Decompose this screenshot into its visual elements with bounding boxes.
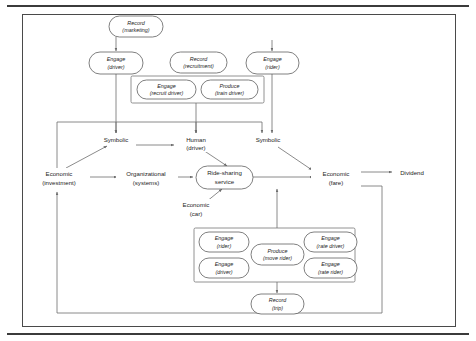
node-produce-train-driver[interactable]: Produce (train driver) bbox=[201, 80, 258, 99]
node-engage-recruit-driver[interactable]: Engage (recruit driver) bbox=[137, 80, 196, 99]
node-economic-investment-line2: (investment) bbox=[42, 179, 76, 186]
node-record-recruitment-line2: (recruitment) bbox=[183, 63, 214, 69]
node-engage-rate-rider[interactable]: Engage (rate rider) bbox=[304, 258, 357, 278]
node-record-trip-line1: Record bbox=[269, 297, 287, 303]
node-economic-fare-line1: Economic bbox=[323, 170, 350, 177]
node-record-marketing-line2: (marketing) bbox=[122, 27, 149, 33]
node-symbolic-left-label: Symbolic bbox=[104, 136, 129, 143]
node-dividend[interactable]: Dividend bbox=[400, 169, 424, 176]
node-economic-investment-line1: Economic bbox=[46, 170, 73, 177]
node-produce-train-driver-line2: (train driver) bbox=[215, 90, 244, 96]
node-engage-rider-top-line1: Engage bbox=[263, 56, 282, 62]
node-engage-rider-lower-line2: (rider) bbox=[217, 243, 232, 249]
node-engage-driver-top-line2: (driver) bbox=[107, 64, 124, 70]
node-record-trip[interactable]: Record (trip) bbox=[251, 294, 304, 314]
node-symbolic-left[interactable]: Symbolic bbox=[96, 133, 136, 144]
bottom-horizontal-rule bbox=[7, 333, 469, 335]
node-engage-driver-top-line1: Engage bbox=[107, 56, 126, 62]
node-produce-move-rider-line1: Produce bbox=[267, 248, 287, 254]
node-engage-rate-rider-line1: Engage bbox=[321, 261, 340, 267]
node-symbolic-right[interactable]: Symbolic bbox=[248, 133, 288, 144]
figure-page: Record (marketing) Engage (driver) Recor… bbox=[0, 0, 476, 341]
node-record-marketing[interactable]: Record (marketing) bbox=[109, 16, 163, 37]
node-engage-driver-lower[interactable]: Engage (driver) bbox=[199, 258, 249, 278]
node-record-recruitment[interactable]: Record (recruitment) bbox=[170, 52, 227, 73]
node-engage-recruit-driver-line2: (recruit driver) bbox=[150, 90, 184, 96]
node-ride-sharing-service-line2: service bbox=[215, 178, 235, 185]
node-organizational-systems-line1: Organizational bbox=[126, 170, 165, 177]
node-economic-fare-line2: (fare) bbox=[329, 179, 344, 186]
diagram-canvas: Record (marketing) Engage (driver) Recor… bbox=[0, 0, 476, 341]
node-engage-driver-top[interactable]: Engage (driver) bbox=[89, 52, 143, 74]
node-record-marketing-line1: Record bbox=[127, 20, 145, 26]
node-economic-car-line2: (car) bbox=[190, 210, 203, 217]
node-produce-move-rider[interactable]: Produce (move rider) bbox=[251, 244, 304, 265]
node-produce-move-rider-line2: (move rider) bbox=[263, 255, 292, 261]
node-economic-car[interactable]: Economic (car) bbox=[172, 199, 222, 218]
node-human-driver-line1: Human bbox=[186, 136, 206, 143]
node-ride-sharing-service[interactable]: Ride-sharing service bbox=[196, 166, 253, 189]
node-human-driver[interactable]: Human (driver) bbox=[176, 133, 216, 152]
node-engage-rider-top[interactable]: Engage (rider) bbox=[246, 52, 299, 74]
node-engage-rate-driver-line1: Engage bbox=[321, 235, 340, 241]
edge-rail-investment-upper bbox=[57, 122, 262, 170]
node-organizational-systems[interactable]: Organizational (systems) bbox=[116, 168, 178, 187]
node-engage-rider-lower[interactable]: Engage (rider) bbox=[199, 232, 249, 252]
node-engage-rate-driver-line2: (rate driver) bbox=[317, 243, 345, 249]
edge-symbolic-right-to-economic-fare bbox=[278, 147, 312, 170]
node-dividend-label: Dividend bbox=[400, 169, 424, 176]
node-engage-rider-lower-line1: Engage bbox=[215, 235, 234, 241]
node-economic-fare[interactable]: Economic (fare) bbox=[311, 168, 361, 187]
node-produce-train-driver-line1: Produce bbox=[219, 83, 239, 89]
node-engage-driver-lower-line2: (driver) bbox=[215, 269, 232, 275]
node-engage-recruit-driver-line1: Engage bbox=[157, 83, 176, 89]
node-economic-investment[interactable]: Economic (investment) bbox=[28, 168, 90, 187]
node-engage-rider-top-line2: (rider) bbox=[265, 64, 280, 70]
node-economic-car-line1: Economic bbox=[183, 201, 210, 208]
node-human-driver-line2: (driver) bbox=[186, 144, 205, 151]
node-symbolic-right-label: Symbolic bbox=[256, 136, 281, 143]
node-engage-driver-lower-line1: Engage bbox=[215, 261, 234, 267]
node-engage-rate-rider-line2: (rate rider) bbox=[318, 269, 343, 275]
edge-investment-to-symbolic-left bbox=[66, 146, 107, 168]
edge-human-driver-to-ride-sharing bbox=[203, 150, 227, 166]
node-record-trip-line2: (trip) bbox=[272, 305, 283, 311]
node-organizational-systems-line2: (systems) bbox=[133, 179, 159, 186]
node-ride-sharing-service-line1: Ride-sharing bbox=[207, 169, 242, 176]
node-record-recruitment-line1: Record bbox=[190, 56, 208, 62]
node-engage-rate-driver[interactable]: Engage (rate driver) bbox=[304, 232, 357, 252]
